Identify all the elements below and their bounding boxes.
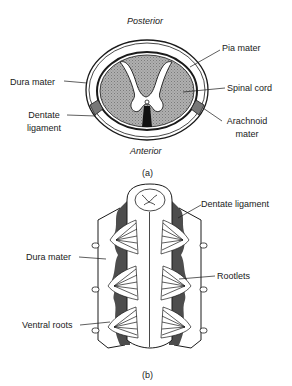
ventral-roots-label: Ventral roots [22,320,73,330]
posterior-label: Posterior [127,16,163,26]
cross-section-figure [64,40,225,140]
anterior-label: Anterior [130,146,162,156]
pia-mater-label: Pia mater [222,43,261,53]
arachnoid-mater-label-line1: Arachnoid [222,116,272,126]
dentate-ligament-label-a: Dentate ligament [22,110,66,133]
caption-a: (a) [142,168,153,178]
dorsal-view-figure [79,184,215,348]
dura-mater-label-a: Dura mater [10,77,55,87]
dura-mater-label-b: Dura mater [26,252,71,262]
dentate-ligament-label-a-line2: ligament [22,123,66,133]
arachnoid-mater-label-line2: mater [222,129,272,139]
arachnoid-mater-label: Arachnoid mater [222,116,272,139]
spinal-cord-label: Spinal cord [227,83,272,93]
caption-b: (b) [142,370,153,380]
rootlets-label: Rootlets [217,271,250,281]
dentate-ligament-label-a-line1: Dentate [22,110,66,120]
dentate-ligament-label-b: Dentate ligament [201,199,269,209]
